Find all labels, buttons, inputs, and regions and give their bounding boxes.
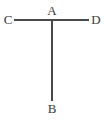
point-label-a: A	[42, 4, 62, 17]
point-label-d: D	[90, 13, 102, 26]
point-label-c: C	[2, 13, 14, 26]
point-label-b: B	[42, 102, 62, 115]
geometry-diagram: A B C D	[0, 0, 105, 120]
vertical-segment-ab	[51, 19, 53, 101]
